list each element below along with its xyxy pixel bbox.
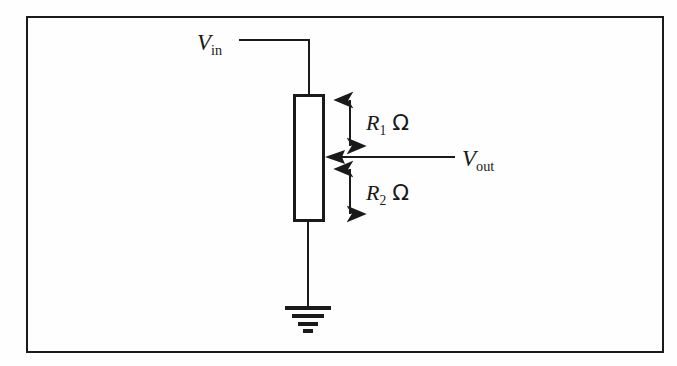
figure-border: [27, 17, 663, 352]
r1-symbol: R: [365, 110, 380, 135]
v-in-label: Vin: [197, 30, 222, 58]
tap-arrowhead-icon: [325, 150, 345, 164]
v-out-subscript: out: [476, 158, 494, 174]
input-wire: [240, 40, 309, 96]
r2-symbol: R: [365, 180, 380, 205]
resistor-body: [294, 95, 323, 220]
r1-subscript: 1: [379, 123, 386, 138]
figure-root: Vin Vout R1Ω R2Ω: [0, 0, 677, 366]
v-in-subscript: in: [211, 42, 222, 58]
r2-label: R2Ω: [365, 180, 409, 208]
r1-unit: Ω: [392, 110, 409, 135]
circuit-diagram-canvas: Vin Vout R1Ω R2Ω: [0, 0, 677, 366]
r2-unit: Ω: [392, 180, 409, 205]
r1-label: R1Ω: [365, 110, 409, 138]
v-out-label: Vout: [462, 146, 494, 174]
r2-subscript: 2: [379, 193, 386, 208]
